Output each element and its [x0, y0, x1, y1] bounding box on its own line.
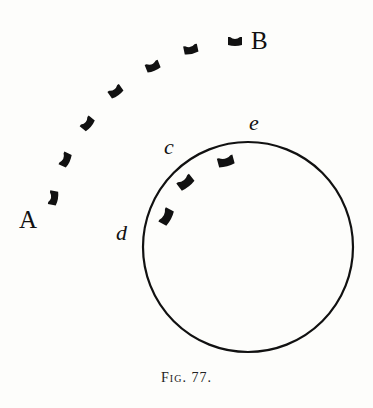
outer-mark-2 [59, 152, 73, 168]
outer-mark-6 [183, 44, 199, 56]
label-c: c [164, 136, 174, 158]
inner-arc-marks [158, 155, 235, 227]
outer-mark-1 [48, 190, 59, 205]
label-A: A [19, 207, 37, 232]
outer-arc-marks [48, 37, 242, 206]
inner-mark-3 [217, 155, 235, 169]
inner-mark-2 [176, 174, 195, 192]
outer-mark-4 [107, 84, 124, 99]
outer-mark-7 [228, 37, 242, 46]
label-e: e [249, 112, 259, 134]
label-B: B [251, 28, 268, 53]
label-d: d [116, 222, 127, 244]
figure-caption: Fig. 77. [0, 370, 373, 386]
circle-outline [143, 142, 353, 352]
outer-mark-3 [80, 115, 96, 132]
inner-mark-1 [158, 207, 174, 226]
diagram-canvas [0, 0, 373, 408]
outer-mark-5 [145, 60, 161, 74]
figure-77: A B c d e Fig. 77. [0, 0, 373, 408]
